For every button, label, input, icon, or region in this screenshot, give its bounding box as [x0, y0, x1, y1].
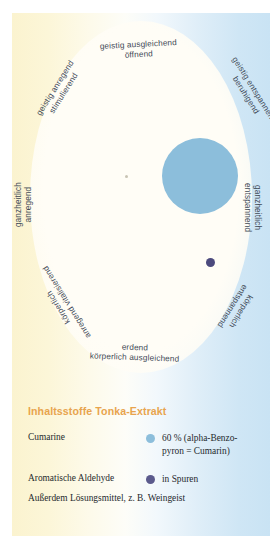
legend-row-value-line1: 60 % (alpha-Benzo- [162, 433, 238, 443]
legend-note-text: Außerdem Lösungsmittel, z. B. Weingeist [28, 493, 185, 503]
wheel-label-line1: erdend [122, 343, 149, 353]
legend-row-name: Aromatische Aldehyde [28, 473, 114, 483]
datapoint-cumarine[interactable] [162, 138, 238, 214]
gradient-panel: geistig ausgleichend öffnend geistig anr… [12, 13, 270, 536]
wheel-label-line2: entspannend [243, 183, 253, 232]
legend-title: Inhaltsstoffe Tonka-Extrakt [28, 405, 166, 417]
wheel-label-erdend: erdend körperlich ausgleichend [90, 341, 180, 363]
datapoint-aromatische-aldehyde[interactable] [206, 258, 215, 267]
wheel-center-mark [125, 175, 128, 178]
legend-row-value-line1: in Spuren [162, 474, 198, 484]
wheel-label-line1: ganzheitlich [14, 182, 23, 227]
wheel-label-geistig-ausgleichend: geistig ausgleichend öffnend [100, 38, 178, 61]
wheel-label-line2: anregend [24, 182, 34, 227]
wheel-label-ganzheitlich-entspannend: ganzheitlich entspannend [243, 183, 262, 232]
wheel-infographic-page: geistig ausgleichend öffnend geistig anr… [0, 0, 279, 551]
legend-row-value-line2: pyron = Cumarin) [162, 445, 270, 458]
wheel-label-line1: ganzheitlich [253, 185, 262, 230]
legend-swatch-icon [146, 434, 155, 443]
legend-row-value: 60 % (alpha-Benzo- pyron = Cumarin) [162, 432, 270, 457]
legend-row-value: in Spuren [162, 473, 270, 486]
wheel-label-ganzheitlich-anregend: ganzheitlich anregend [14, 182, 33, 227]
legend-swatch-icon [146, 475, 155, 484]
legend-row-name: Cumarine [28, 432, 65, 442]
